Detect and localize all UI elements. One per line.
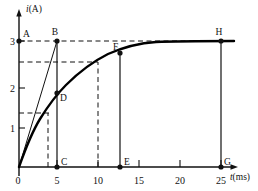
point-marker-G bbox=[218, 164, 223, 169]
y-tick-label-3: 3 bbox=[10, 36, 15, 47]
current-vs-time-graph: i(A) t(ms) 3 2 1 0 5 10 15 20 25 bbox=[0, 0, 258, 191]
x-tick-label-20: 20 bbox=[175, 175, 185, 186]
x-axis-label-unit: (ms) bbox=[233, 172, 250, 183]
point-label-E: E bbox=[124, 157, 130, 167]
point-marker-B bbox=[54, 38, 59, 43]
point-label-D: D bbox=[60, 93, 67, 103]
point-label-C: C bbox=[61, 157, 67, 167]
x-tick-label-25: 25 bbox=[216, 175, 226, 186]
point-marker-C bbox=[54, 164, 59, 169]
y-axis-label: i(A) bbox=[26, 4, 42, 15]
point-marker-A bbox=[16, 38, 21, 43]
axes-group bbox=[16, 9, 238, 176]
graph-canvas: i(A) t(ms) 3 2 1 0 5 10 15 20 25 bbox=[0, 0, 258, 191]
point-label-G: G bbox=[224, 157, 231, 167]
y-tick-group: 3 2 1 bbox=[10, 36, 25, 134]
point-marker-D bbox=[54, 90, 59, 95]
x-axis-arrowhead bbox=[231, 164, 239, 169]
x-tick-label-15: 15 bbox=[134, 175, 144, 186]
x-tick-group: 0 5 10 15 20 25 bbox=[16, 160, 227, 186]
vertical-drop-lines-group bbox=[57, 41, 221, 167]
x-tick-label-5: 5 bbox=[55, 175, 60, 186]
y-axis-label-unit: (A) bbox=[29, 4, 42, 15]
point-label-F: F bbox=[113, 42, 118, 52]
x-tick-label-10: 10 bbox=[93, 175, 103, 186]
x-tick-label-0: 0 bbox=[16, 175, 21, 186]
point-label-B: B bbox=[52, 27, 58, 37]
y-tick-label-1: 1 bbox=[10, 123, 15, 134]
x-axis-label: t(ms) bbox=[230, 172, 250, 183]
point-marker-E bbox=[117, 164, 122, 169]
y-axis-arrowhead bbox=[16, 9, 21, 17]
point-label-H: H bbox=[216, 27, 223, 37]
point-label-A: A bbox=[23, 29, 30, 39]
y-tick-label-2: 2 bbox=[10, 83, 15, 94]
point-marker-H bbox=[218, 38, 223, 43]
